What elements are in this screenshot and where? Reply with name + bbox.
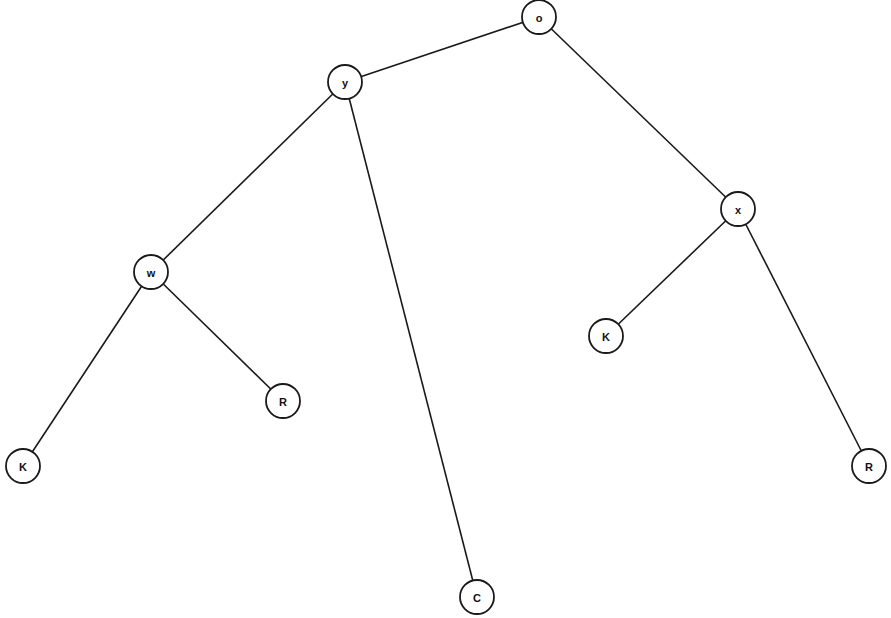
tree-edge	[151, 82, 345, 272]
node-label: R	[279, 396, 287, 408]
node-label: w	[146, 267, 156, 279]
node-label: K	[19, 461, 27, 473]
tree-node-k-right: K	[589, 319, 623, 353]
edges-layer	[23, 17, 869, 597]
tree-edge	[539, 17, 738, 209]
tree-edge	[345, 17, 539, 82]
tree-diagram: o y x w K R K R	[0, 0, 891, 618]
tree-node-x: x	[721, 192, 755, 226]
tree-edge	[738, 209, 869, 466]
tree-edge	[23, 272, 151, 466]
node-label: x	[735, 204, 742, 216]
node-label: R	[865, 461, 873, 473]
tree-node-c: C	[460, 580, 494, 614]
node-label: o	[536, 12, 543, 24]
node-label: C	[473, 592, 481, 604]
tree-edge	[151, 272, 283, 401]
tree-edge	[606, 209, 738, 336]
tree-node-k-left: K	[6, 449, 40, 483]
tree-node-r-right: R	[852, 449, 886, 483]
tree-node-r-middle: R	[266, 384, 300, 418]
node-label: K	[602, 331, 610, 343]
tree-node-w: w	[134, 255, 168, 289]
tree-edge	[345, 82, 477, 597]
node-label: y	[342, 77, 349, 89]
tree-node-y: y	[328, 65, 362, 99]
nodes-layer: o y x w K R K R	[6, 0, 886, 614]
tree-node-o: o	[522, 0, 556, 34]
